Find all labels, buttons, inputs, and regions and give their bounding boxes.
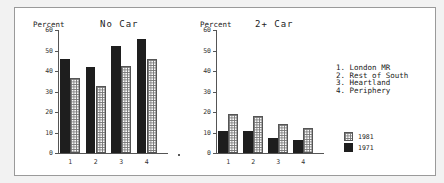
bar-1981-cat-4 xyxy=(303,128,313,153)
solid-swatch-icon xyxy=(344,143,353,152)
x-tick-label: 3 xyxy=(271,158,285,166)
bar-1981-cat-2 xyxy=(253,116,263,153)
bar-1971-cat-4 xyxy=(293,140,303,153)
bar-1971-cat-1 xyxy=(218,131,228,153)
bar-1971-cat-3 xyxy=(268,138,278,153)
y-tick-mark xyxy=(55,153,58,154)
x-tick-label: 2 xyxy=(89,158,103,166)
legend-label: 1971 xyxy=(358,144,374,152)
legend-label: 1981 xyxy=(358,133,374,141)
category-key-item: 4. Periphery xyxy=(336,87,408,95)
y-tick-mark xyxy=(213,153,216,154)
x-tick-label: 1 xyxy=(63,158,77,166)
category-key: 1. London MR 2. Rest of South 3. Heartla… xyxy=(336,64,408,94)
legend-item-1971: 1971 xyxy=(344,143,374,152)
x-tick-label: 1 xyxy=(221,158,235,166)
panel-title: 2+ Car xyxy=(255,19,294,29)
x-tick-label: 4 xyxy=(140,158,154,166)
bar-1971-cat-2 xyxy=(243,131,253,153)
x-tick-label: 4 xyxy=(296,158,310,166)
legend-item-1981: 1981 xyxy=(344,132,374,141)
stray-dot xyxy=(178,154,180,156)
x-axis xyxy=(58,153,168,154)
x-tick-label: 2 xyxy=(246,158,260,166)
panel-title: No Car xyxy=(100,19,139,29)
x-tick-label: 3 xyxy=(114,158,128,166)
bar-1981-cat-1 xyxy=(228,114,238,153)
bar-1981-cat-3 xyxy=(278,124,288,153)
x-axis xyxy=(216,153,324,154)
hatched-swatch-icon xyxy=(344,132,353,141)
